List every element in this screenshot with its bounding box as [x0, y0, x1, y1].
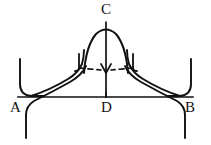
- left-lower-flank: [26, 66, 86, 115]
- left-dashed-converging-line: [79, 68, 101, 70]
- vertex-label-c: C: [101, 2, 111, 17]
- vertex-label-b: B: [185, 100, 195, 115]
- right-dashed-converging-line: [111, 68, 133, 70]
- left-end-hook: [20, 59, 44, 96]
- right-end-hook: [167, 59, 191, 96]
- diagram-svg: [0, 0, 211, 145]
- figure-container: A B C D: [0, 0, 211, 145]
- vertex-label-a: A: [10, 100, 21, 115]
- right-lower-flank: [125, 66, 185, 115]
- vertex-label-d: D: [101, 100, 112, 115]
